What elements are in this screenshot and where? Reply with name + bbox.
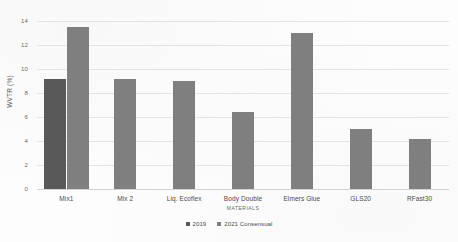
x-axis-tick-label: Mix 2 [117,195,133,202]
gridline [37,189,449,190]
legend-label: 2021 Consensual [224,221,272,227]
y-axis-tick-label: 12 [21,42,28,48]
y-axis-title: WVTR (%) [6,62,13,122]
x-axis-title: MATERIALS [37,205,449,211]
bar-chart: 02468101214 WVTR (%) Mix1Mix 2Liq. Ecofl… [0,0,458,242]
x-axis-tick-label: Body Double [224,195,262,202]
y-axis-tick-label: 2 [24,162,28,168]
x-axis-tick-label: Elmers Glue [283,195,320,202]
x-axis-tick-label: RFast30 [407,195,432,202]
x-axis-tick-label: Mix1 [59,195,73,202]
y-axis-tick-label: 0 [24,186,28,192]
y-axis-tick-label: 14 [21,18,28,24]
plot-area [37,21,449,189]
bar [409,139,431,189]
chart-legend: 20192021 Consensual [0,221,458,227]
legend-item[interactable]: 2019 [186,221,207,227]
x-axis-tick-label: GLS20 [350,195,371,202]
legend-swatch-icon [186,222,190,226]
y-axis-tick-label: 4 [24,138,28,144]
bar-group [37,21,449,189]
y-axis-tick-label: 10 [21,66,28,72]
y-axis-tick-label: 8 [24,90,28,96]
x-axis-tick-label: Liq. Ecoflex [167,195,202,202]
y-axis-tick-label: 6 [24,114,28,120]
legend-item[interactable]: 2021 Consensual [217,221,272,227]
legend-label: 2019 [193,221,207,227]
legend-swatch-icon [217,222,221,226]
